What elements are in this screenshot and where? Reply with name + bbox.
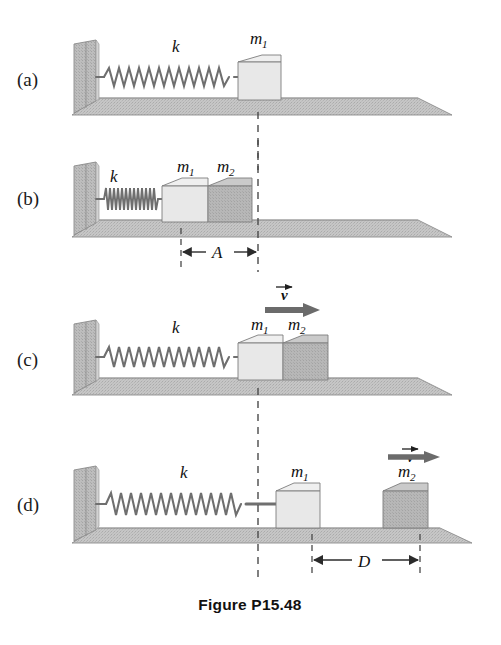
panel-a-label-m1: m 1: [250, 29, 268, 50]
m2-symbol: m: [217, 157, 229, 176]
panel-d-block-m1: [276, 483, 320, 528]
m1-subscript: 1: [262, 38, 268, 50]
panel-d-velocity-vector: v: [388, 449, 440, 465]
panel-d-spring: [96, 493, 276, 515]
panel-c-spring-constant-label: k: [172, 318, 180, 337]
panel-d-label: (d): [17, 494, 39, 516]
velocity-arrow-head: [424, 451, 440, 463]
m1-symbol: m: [250, 29, 262, 48]
m1-symbol: m: [177, 157, 189, 176]
panel-d-label-m2: m 2: [398, 462, 416, 483]
panel-c-label-m2: m 2: [288, 315, 306, 336]
panel-b-floor: [72, 220, 452, 237]
panel-b-label-m2: m 2: [217, 157, 235, 178]
panel-a-label: (a): [17, 69, 38, 91]
panel-d: (d) m 1 m: [17, 440, 472, 578]
panel-b-label-m1: m 1: [177, 157, 195, 178]
panel-c-label: (c): [17, 349, 38, 371]
panel-d-label-m1: m 1: [291, 462, 309, 483]
panel-d-spring-constant-label: k: [180, 463, 188, 482]
velocity-symbol: v: [281, 287, 288, 303]
panel-b-spring-constant-label: k: [110, 167, 118, 186]
m1-subscript: 1: [303, 471, 309, 483]
panel-b-block-m1: [162, 178, 208, 222]
panel-d-block-m2: [383, 483, 428, 528]
panel-c-floor: [72, 378, 452, 395]
figure-caption: Figure P15.48: [198, 596, 302, 613]
panel-b-spring: [96, 188, 162, 210]
panel-b-dimension-A: A: [183, 243, 256, 262]
m2-subscript: 2: [410, 471, 416, 483]
panel-c-block-m2: [283, 335, 328, 380]
m1-symbol: m: [251, 315, 263, 334]
m1-symbol: m: [291, 462, 303, 481]
dim-D-label: D: [357, 552, 371, 571]
panel-c-spring: [96, 347, 238, 367]
physics-figure-svg: (a) m 1 k: [0, 0, 501, 645]
velocity-arrow-head: [303, 303, 320, 317]
figure-container: (a) m 1 k: [0, 0, 501, 645]
panel-a: (a) m 1 k: [17, 29, 452, 170]
m2-subscript: 2: [300, 324, 306, 336]
panel-c: (c) m 1 m: [17, 287, 452, 440]
dim-A-label: A: [211, 243, 223, 262]
panel-c-velocity-vector: v: [265, 287, 320, 317]
m1-subscript: 1: [189, 166, 195, 178]
panel-b-block-m2: [208, 178, 252, 222]
panel-b-label: (b): [17, 188, 39, 210]
panel-b: (b) m 1 m: [17, 140, 452, 272]
panel-c-label-m1: m 1: [251, 315, 269, 336]
panel-a-spring: [96, 68, 238, 86]
panel-a-block-m1: [238, 55, 281, 100]
panel-c-block-m1: [238, 335, 283, 380]
panel-d-floor: [72, 528, 472, 543]
m2-symbol: m: [288, 315, 300, 334]
panel-d-dimension-D: D: [314, 552, 418, 571]
panel-a-spring-constant-label: k: [172, 37, 180, 56]
m1-subscript: 1: [263, 324, 269, 336]
panel-a-floor: [72, 98, 452, 115]
m2-subscript: 2: [229, 166, 235, 178]
